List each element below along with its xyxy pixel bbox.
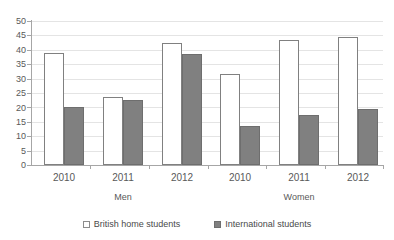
- bar-chart: 50 45 40 35 30 25 20 15 10 5 0: [0, 0, 394, 240]
- bar-home-men-2011[interactable]: [103, 97, 123, 165]
- x-axis-tick: [149, 165, 150, 169]
- bar-international-men-2012[interactable]: [182, 54, 202, 165]
- y-axis-tick: [27, 165, 31, 166]
- bar-home-women-2012[interactable]: [338, 37, 358, 165]
- group-label-men: Men: [93, 192, 153, 203]
- x-axis-label-men-2012: 2012: [152, 172, 212, 184]
- y-axis-tick-label: 20: [2, 104, 26, 113]
- bar-international-women-2010[interactable]: [240, 126, 260, 165]
- y-axis-tick-label: 35: [2, 60, 26, 69]
- x-axis-label-women-2012: 2012: [328, 172, 388, 184]
- open-square-swatch-icon: [83, 221, 90, 228]
- x-axis-tick: [90, 165, 91, 169]
- bar-home-men-2010[interactable]: [44, 53, 64, 165]
- x-axis-label-men-2010: 2010: [34, 172, 94, 184]
- legend-label: British home students: [94, 219, 181, 229]
- x-axis-label-women-2010: 2010: [210, 172, 270, 184]
- bar-international-women-2011[interactable]: [299, 115, 319, 165]
- legend-item-british-home-students[interactable]: British home students: [83, 219, 181, 229]
- bar-international-men-2010[interactable]: [64, 107, 84, 165]
- y-axis-tick-label: 50: [2, 17, 26, 26]
- y-axis-labels: 50 45 40 35 30 25 20 15 10 5 0: [0, 0, 26, 240]
- y-axis-tick-label: 25: [2, 89, 26, 98]
- x-axis-tick: [266, 165, 267, 169]
- filled-square-swatch-icon: [214, 221, 221, 228]
- bar-home-men-2012[interactable]: [162, 43, 182, 165]
- bar-home-women-2010[interactable]: [220, 74, 240, 165]
- y-axis-tick-label: 15: [2, 118, 26, 127]
- bars-layer: [31, 21, 383, 165]
- bar-international-women-2012[interactable]: [358, 109, 378, 165]
- y-axis-tick-label: 40: [2, 46, 26, 55]
- y-axis-tick-label: 30: [2, 75, 26, 84]
- y-axis-tick-label: 0: [2, 161, 26, 170]
- x-axis-label-men-2011: 2011: [93, 172, 153, 184]
- y-axis-tick-label: 5: [2, 147, 26, 156]
- y-axis-tick-label: 45: [2, 31, 26, 40]
- x-axis-label-women-2011: 2011: [269, 172, 329, 184]
- x-axis-labels: 2010 2011 2012 2010 2011 2012: [31, 172, 383, 186]
- legend-label: International students: [225, 219, 311, 229]
- x-axis-tick: [208, 165, 209, 169]
- x-axis-tick: [383, 165, 384, 169]
- group-labels: Men Women: [31, 192, 383, 206]
- bar-international-men-2011[interactable]: [123, 100, 143, 165]
- bar-home-women-2011[interactable]: [279, 40, 299, 165]
- group-label-women: Women: [269, 192, 329, 203]
- y-axis-tick-label: 10: [2, 132, 26, 141]
- chart-title-clipped: [0, 0, 394, 7]
- chart-legend: British home students International stud…: [0, 219, 394, 229]
- legend-item-international-students[interactable]: International students: [214, 219, 311, 229]
- x-axis-tick: [325, 165, 326, 169]
